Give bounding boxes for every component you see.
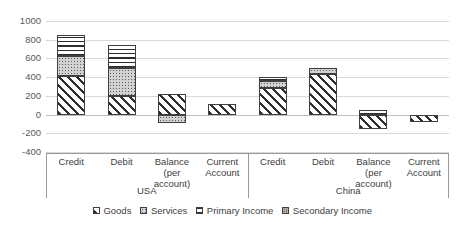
stacked-bar — [208, 21, 236, 152]
stacked-bar — [410, 21, 438, 152]
category-label: Debit — [96, 153, 146, 183]
bar-segment — [57, 56, 85, 77]
bar-segment — [410, 115, 438, 122]
stacked-bar — [57, 21, 85, 152]
legend-swatch-icon — [196, 207, 203, 214]
bar-column — [399, 21, 449, 152]
legend-label: Services — [151, 205, 187, 216]
legend-swatch-icon — [282, 207, 289, 214]
bars-layer — [46, 21, 449, 152]
category-label: Current Account — [399, 153, 449, 183]
axis-separator — [248, 153, 249, 198]
bar-column — [248, 21, 298, 152]
category-label: Credit — [248, 153, 298, 183]
bar-column — [298, 21, 348, 152]
legend-label: Primary Income — [207, 205, 274, 216]
bar-segment — [309, 68, 337, 74]
bar-segment — [359, 115, 387, 130]
legend-item[interactable]: Secondary Income — [282, 205, 372, 216]
legend-swatch-icon — [93, 207, 100, 214]
y-axis-labels: 10008006004002000-200-400 — [0, 21, 41, 152]
bar-segment — [158, 94, 186, 114]
stacked-bar — [158, 21, 186, 152]
bar-column — [96, 21, 146, 152]
category-label: Credit — [46, 153, 96, 183]
bar-column — [147, 21, 197, 152]
bar-column — [348, 21, 398, 152]
bar-column — [197, 21, 247, 152]
bar-segment — [208, 104, 236, 114]
legend-item[interactable]: Primary Income — [196, 205, 273, 216]
y-axis-tick-label: 200 — [1, 91, 41, 101]
bar-segment — [57, 76, 85, 114]
group-label: USA — [46, 185, 248, 199]
legend-swatch-icon — [140, 207, 147, 214]
stacked-bar — [359, 21, 387, 152]
stacked-bar — [108, 21, 136, 152]
axis-separator — [448, 153, 449, 198]
bar-segment — [158, 115, 186, 123]
bar-column — [46, 21, 96, 152]
category-axis: CreditDebitBalance (per account)Current … — [46, 153, 449, 200]
axis-line — [46, 153, 449, 154]
bar-segment — [259, 77, 287, 81]
y-axis-tick-label: 600 — [1, 53, 41, 63]
bar-segment — [259, 88, 287, 114]
category-label: Current Account — [197, 153, 247, 183]
plot-area — [46, 21, 449, 152]
stacked-bar — [309, 21, 337, 152]
legend-label: Secondary Income — [293, 205, 372, 216]
legend-item[interactable]: Services — [140, 205, 187, 216]
bar-segment — [309, 74, 337, 114]
legend-label: Goods — [103, 205, 131, 216]
y-axis-tick-label: 0 — [1, 110, 41, 120]
y-axis-tick-label: -400 — [1, 147, 41, 157]
group-label: China — [248, 185, 450, 199]
y-axis-tick-label: 400 — [1, 72, 41, 82]
y-axis-tick-label: 800 — [1, 35, 41, 45]
axis-separator — [46, 153, 47, 198]
category-label: Balance (per account) — [348, 153, 398, 183]
bar-segment — [57, 35, 85, 56]
category-label: Debit — [298, 153, 348, 183]
bar-segment — [108, 68, 136, 97]
stacked-bar — [259, 21, 287, 152]
y-axis-tick-label: -200 — [1, 128, 41, 138]
chart-legend: GoodsServicesPrimary IncomeSecondary Inc… — [0, 205, 465, 216]
category-label: Balance (per account) — [147, 153, 197, 183]
legend-item[interactable]: Goods — [93, 205, 132, 216]
bar-segment — [108, 45, 136, 68]
bar-segment — [108, 96, 136, 114]
bar-segment — [359, 110, 387, 115]
y-axis-tick-label: 1000 — [1, 16, 41, 26]
stacked-bar-chart: 10008006004002000-200-400 CreditDebitBal… — [0, 0, 465, 235]
bar-segment — [259, 81, 287, 88]
